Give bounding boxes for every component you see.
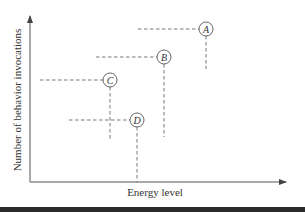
- diagram-canvas: ABCD Energy level Number of behavior inv…: [0, 0, 305, 212]
- y-axis-label: Number of behavior invocations: [11, 29, 23, 172]
- x-axis-label: Energy level: [127, 186, 183, 198]
- data-points: ABCD: [40, 22, 213, 182]
- point-label: A: [202, 24, 210, 35]
- point-a: A: [138, 22, 213, 69]
- point-c: C: [40, 73, 117, 140]
- bottom-border-bar: [0, 207, 305, 212]
- axes: [30, 16, 286, 182]
- point-label: C: [107, 75, 114, 86]
- point-label: B: [161, 52, 167, 63]
- point-d: D: [69, 113, 144, 182]
- point-label: D: [132, 115, 141, 126]
